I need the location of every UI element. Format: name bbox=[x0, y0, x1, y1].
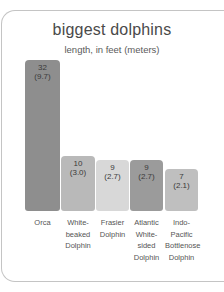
category-label-line: sided bbox=[130, 240, 163, 252]
category-label-line: Indo- bbox=[165, 217, 198, 229]
bar-value-label: 10 bbox=[61, 159, 95, 168]
bar-meters-label: (9.7) bbox=[25, 72, 60, 81]
category-label-line: Atlantic bbox=[130, 217, 163, 229]
x-axis-labels: OrcaWhite-beakedDolphinFrasierDolphinAtl… bbox=[25, 217, 198, 277]
category-label: AtlanticWhite-sidedDolphin bbox=[130, 217, 163, 263]
plot-area: 32(9.7)10(3.0)9(2.7)9(2.7)7(2.1) bbox=[25, 60, 198, 211]
bar-value-label: 32 bbox=[25, 63, 60, 72]
bar: 10(3.0) bbox=[61, 156, 95, 211]
bar: 32(9.7) bbox=[25, 60, 60, 211]
category-label-line: White- bbox=[61, 217, 95, 229]
category-label-line: Dolphin bbox=[165, 252, 198, 264]
category-label: Orca bbox=[25, 217, 60, 229]
category-label-line: Bottlenose bbox=[165, 240, 198, 252]
category-label: FrasierDolphin bbox=[96, 217, 129, 240]
bar-value-label: 9 bbox=[96, 163, 129, 172]
category-label-line: beaked bbox=[61, 229, 95, 241]
bar-meters-label: (2.7) bbox=[96, 172, 129, 181]
category-label-line: Orca bbox=[25, 217, 60, 229]
category-label-line: Pacific bbox=[165, 229, 198, 241]
bar: 9(2.7) bbox=[130, 160, 163, 211]
bar-meters-label: (2.7) bbox=[130, 172, 163, 181]
chart-subtitle: length, in feet (meters) bbox=[0, 44, 224, 55]
category-label-line: Frasier bbox=[96, 217, 129, 229]
bar: 7(2.1) bbox=[165, 169, 198, 211]
category-label: Indo-PacificBottlenoseDolphin bbox=[165, 217, 198, 263]
bar-meters-label: (2.1) bbox=[165, 181, 198, 190]
chart-title: biggest dolphins bbox=[0, 21, 224, 39]
category-label-line: Dolphin bbox=[130, 252, 163, 264]
bar-value-label: 7 bbox=[165, 172, 198, 181]
category-label-line: Dolphin bbox=[61, 240, 95, 252]
bar-meters-label: (3.0) bbox=[61, 168, 95, 177]
bar: 9(2.7) bbox=[96, 160, 129, 211]
bar-value-label: 9 bbox=[130, 163, 163, 172]
category-label: White-beakedDolphin bbox=[61, 217, 95, 252]
category-label-line: Dolphin bbox=[96, 229, 129, 241]
category-label-line: White- bbox=[130, 229, 163, 241]
